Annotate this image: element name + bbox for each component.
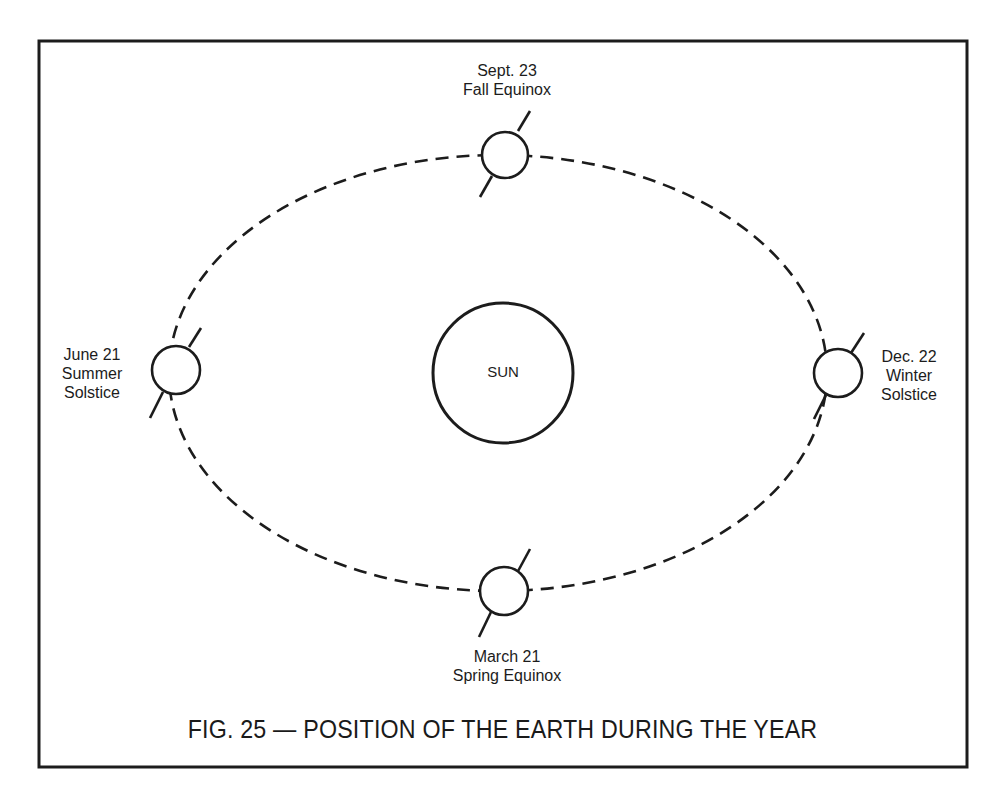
earth-winter-solstice: [814, 333, 864, 419]
label-name: Fall Equinox: [447, 80, 567, 99]
label-date: Dec. 22: [869, 347, 949, 366]
figure-caption: FIG. 25 — POSITION OF THE EARTH DURING T…: [71, 715, 935, 744]
earth-summer-solstice: [150, 328, 201, 418]
label-name-2: Solstice: [52, 383, 132, 402]
label-name: Spring Equinox: [437, 666, 577, 685]
label-spring-equinox: March 21 Spring Equinox: [437, 647, 577, 685]
label-name: Summer: [52, 364, 132, 383]
label-winter-solstice: Dec. 22 Winter Solstice: [869, 347, 949, 404]
label-summer-solstice: June 21 Summer Solstice: [52, 345, 132, 402]
label-date: June 21: [52, 345, 132, 364]
earth-spring-equinox: [479, 549, 530, 637]
label-fall-equinox: Sept. 23 Fall Equinox: [447, 61, 567, 99]
label-name: Winter: [869, 366, 949, 385]
sun-label: SUN: [463, 363, 543, 380]
earth-fall-equinox: [480, 111, 530, 197]
label-name-2: Solstice: [869, 385, 949, 404]
label-date: March 21: [437, 647, 577, 666]
label-date: Sept. 23: [447, 61, 567, 80]
